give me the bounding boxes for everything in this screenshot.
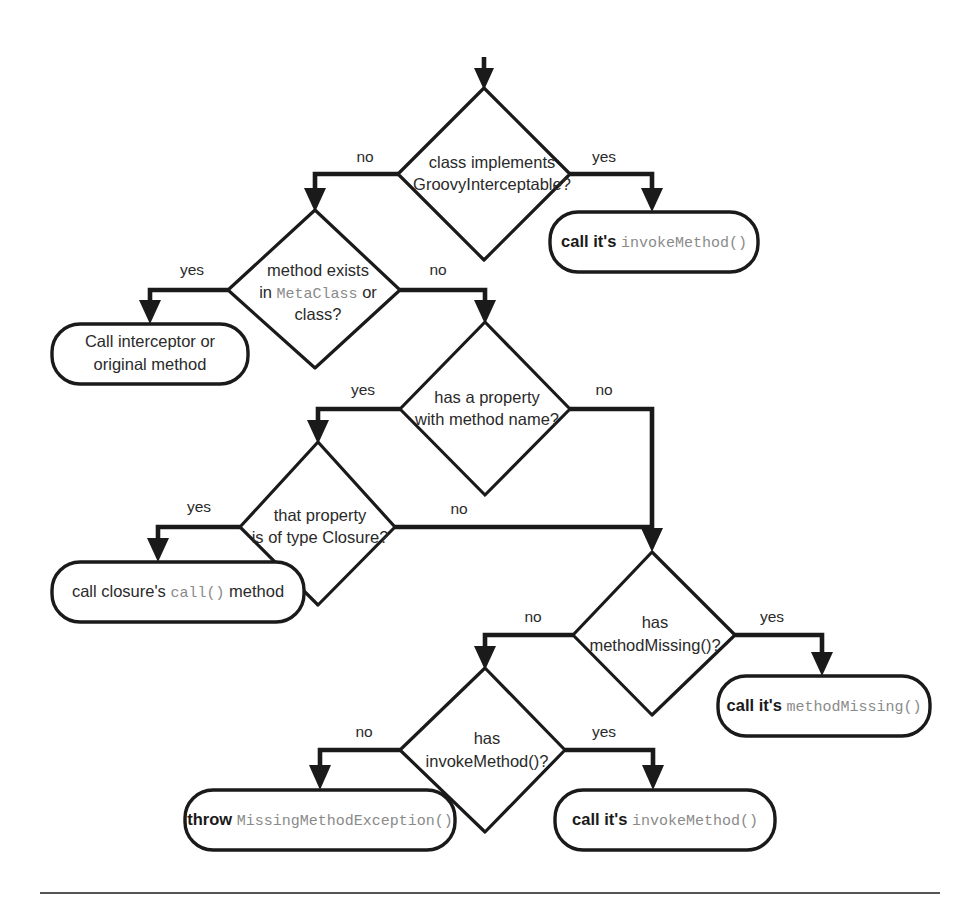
edge-label-d1-yes: yes [592,148,616,165]
decision-4-line-2: is of type Closure? [252,528,389,546]
edge-d6-yes [565,750,664,790]
terminal-2-line-2: original method [94,355,207,373]
decision-has-a-property-with-method-name[interactable] [400,322,570,495]
terminal-6-label: call it's invokeMethod() [572,810,758,830]
edge-label-d2-yes: yes [180,261,204,278]
terminal-6-bold: call it's [572,810,627,828]
decision-has-methodmissing[interactable] [573,552,735,715]
edge-label-d5-no: no [524,608,541,625]
terminal-3-post: method [229,582,284,600]
decision-2-line-2-pre: in [259,283,276,301]
svg-text:in MetaClass or: in MetaClass or [259,283,377,303]
decision-2-line-1: method exists [267,261,369,279]
edge-d2-yes [139,290,228,324]
edge-label-d3-no: no [595,381,612,398]
edge-d2-no [400,290,496,324]
edge-label-d3-yes: yes [351,381,375,398]
decision-4-line-1: that property [274,506,367,524]
decision-2-line-2-post: or [358,283,378,301]
terminal-5-bold: throw [187,810,232,828]
decision-6-line-2: invokeMethod()? [426,752,549,770]
decision-2-line-3: class? [295,305,342,323]
edge-d1-yes [570,174,663,212]
edge-label-d4-yes: yes [187,498,211,515]
decision-5-line-1: has [642,613,669,631]
edge-label-d1-no: no [356,148,373,165]
decision-2-line-2: in MetaClass or [259,283,377,303]
edge-d5-no [474,635,573,670]
flowchart-svg: class implements GroovyInterceptable? me… [0,0,970,910]
decision-3-line-2: with method name? [414,410,559,428]
terminal-4-bold: call it's [727,696,782,714]
terminal-2-line-1: Call interceptor or [85,332,216,350]
terminal-1-bold: call it's [561,232,616,250]
edge-d6-no [309,750,400,790]
edge-d5-yes [735,635,833,676]
terminal-4-label: call it's methodMissing() [727,696,922,716]
decision-2-line-2-mono: MetaClass [277,286,358,303]
edge-label-d2-no: no [429,261,446,278]
edge-label-d4-no: no [450,500,467,517]
edge-d4-yes [147,527,240,562]
decision-6-line-1: has [474,729,501,747]
terminal-6-mono: invokeMethod() [632,813,758,830]
terminal-5-label: throw MissingMethodException() [187,810,453,830]
terminal-1-label: call it's invokeMethod() [561,232,747,252]
decision-class-implements-groovyinterceptable[interactable] [398,88,570,260]
decision-5-line-2: methodMissing()? [589,636,720,654]
terminal-3-label: call closure's call() method [72,582,284,602]
terminal-3-pre: call closure's [72,582,166,600]
decision-1-line-1: class implements [429,153,556,171]
terminal-4-mono: methodMissing() [786,699,921,716]
decision-3-line-1: has a property [434,388,540,406]
decision-1-line-2: GroovyInterceptable? [413,175,571,193]
terminal-1-mono: invokeMethod() [621,235,747,252]
edge-d3-no [570,409,663,552]
entry-arrow [474,57,494,90]
flowchart-canvas: class implements GroovyInterceptable? me… [0,0,970,910]
edge-label-d6-no: no [355,723,372,740]
terminal-5-mono: MissingMethodException() [237,813,453,830]
edge-label-d6-yes: yes [592,723,616,740]
terminal-3-mono: call() [170,585,224,602]
edge-d3-yes [307,409,400,444]
edge-d1-no [304,174,398,212]
edge-label-d5-yes: yes [760,608,784,625]
